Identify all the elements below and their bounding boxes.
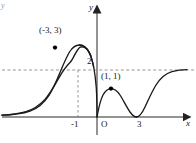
y-tick-label-2: 2 bbox=[87, 57, 92, 66]
origin-label: O bbox=[101, 120, 108, 129]
x-axis-label: x bbox=[186, 119, 190, 128]
curve-right-branch bbox=[136, 70, 187, 117]
point-label-1-1: (1, 1) bbox=[101, 72, 121, 81]
plot-canvas bbox=[0, 0, 196, 143]
corner-mark: y bbox=[1, 2, 5, 10]
function-graph-figure: y (-3, 3) (1, 1) 2 -1 O 3 x y bbox=[0, 0, 196, 143]
curve-hump-between-zeros bbox=[97, 89, 136, 117]
x-tick-label-neg1: -1 bbox=[71, 120, 79, 129]
x-tick-label-3: 3 bbox=[137, 120, 142, 129]
data-point-marker-1-1 bbox=[109, 86, 113, 90]
curve-left-hump bbox=[2, 45, 94, 115]
data-point-marker-neg3-3 bbox=[53, 45, 57, 49]
y-axis-label: y bbox=[89, 3, 93, 12]
point-label-neg3-3: (-3, 3) bbox=[39, 26, 62, 35]
